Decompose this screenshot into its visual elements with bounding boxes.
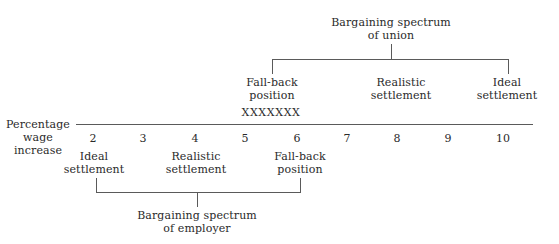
union-title-line2: of union — [331, 29, 451, 42]
tick-4: 4 — [191, 132, 198, 145]
axis-label-line3: increase — [6, 144, 70, 157]
employer-bracket-right — [300, 178, 301, 192]
axis-label-line2: wage — [6, 131, 70, 144]
union-ideal-line2: settlement — [477, 89, 537, 102]
overlap-marker: XXXXXXX — [241, 106, 300, 119]
union-bracket-right — [508, 59, 509, 74]
axis-line — [76, 124, 533, 125]
union-fallback-line2: position — [246, 89, 298, 102]
union-fallback-line1: Fall-back — [246, 76, 298, 89]
employer-title: Bargaining spectrum of employer — [137, 209, 257, 235]
tick-2: 2 — [89, 132, 96, 145]
employer-bracket-bar — [96, 192, 301, 193]
tick-10: 10 — [496, 132, 510, 145]
union-title-line1: Bargaining spectrum — [331, 16, 451, 29]
employer-ideal-line2: settlement — [64, 163, 124, 176]
employer-bracket-stem — [197, 192, 198, 207]
tick-9: 9 — [444, 132, 451, 145]
union-title: Bargaining spectrum of union — [331, 16, 451, 42]
union-bracket-bar — [272, 59, 509, 60]
union-ideal-label: Ideal settlement — [477, 76, 537, 102]
employer-fallback-line1: Fall-back — [274, 150, 326, 163]
union-realistic-line1: Realistic — [371, 76, 431, 89]
employer-realistic-label: Realistic settlement — [166, 150, 226, 176]
axis-label: Percentage wage increase — [6, 118, 70, 157]
axis-label-line1: Percentage — [6, 118, 70, 131]
union-fallback-label: Fall-back position — [246, 76, 298, 102]
union-bracket-stem — [391, 44, 392, 59]
union-realistic-label: Realistic settlement — [371, 76, 431, 102]
employer-ideal-line1: Ideal — [64, 150, 124, 163]
union-ideal-line1: Ideal — [477, 76, 537, 89]
employer-bracket-left — [96, 178, 97, 192]
employer-fallback-label: Fall-back position — [274, 150, 326, 176]
tick-3: 3 — [139, 132, 146, 145]
employer-ideal-label: Ideal settlement — [64, 150, 124, 176]
tick-5: 5 — [241, 132, 248, 145]
union-bracket-left — [272, 59, 273, 74]
employer-fallback-line2: position — [274, 163, 326, 176]
tick-8: 8 — [393, 132, 400, 145]
employer-realistic-line1: Realistic — [166, 150, 226, 163]
employer-realistic-line2: settlement — [166, 163, 226, 176]
tick-7: 7 — [343, 132, 350, 145]
employer-title-line2: of employer — [137, 222, 257, 235]
employer-title-line1: Bargaining spectrum — [137, 209, 257, 222]
tick-6: 6 — [293, 132, 300, 145]
union-realistic-line2: settlement — [371, 89, 431, 102]
